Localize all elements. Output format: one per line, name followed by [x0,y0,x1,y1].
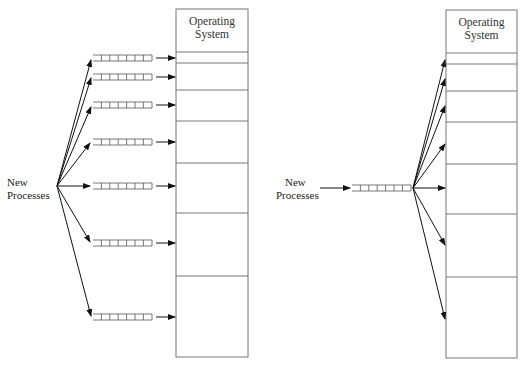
left-fan-arrows [57,60,91,316]
left-queue-arrows [156,58,175,317]
right-memory-block [446,10,517,358]
left-new-label: New [7,176,50,189]
left-os-line2: System [176,28,248,41]
left-new-processes-label: New Processes [7,176,50,202]
left-os-label: Operating System [176,15,248,41]
left-processes-label: Processes [7,189,50,202]
diagram-canvas [0,0,525,372]
left-os-line1: Operating [176,15,248,28]
right-fan-arrows [413,60,445,319]
left-memory-block [176,9,248,357]
right-new-processes-label: New Processes [276,176,319,202]
right-new-label: New [276,176,319,189]
right-single-queue [352,185,411,191]
right-os-line2: System [446,29,517,42]
left-queues [93,55,152,320]
right-os-line1: Operating [446,16,517,29]
right-os-label: Operating System [446,16,517,42]
right-processes-label: Processes [276,189,319,202]
